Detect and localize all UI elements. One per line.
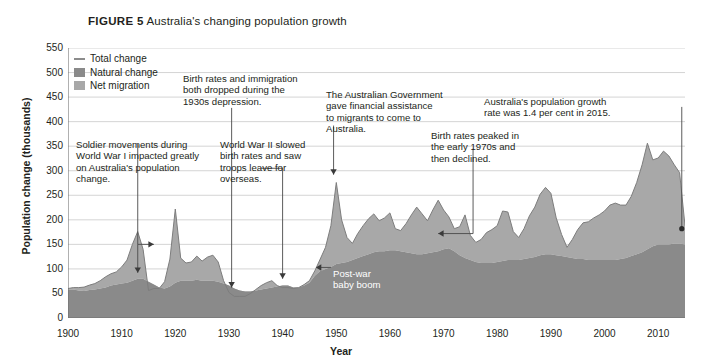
figure-caption: Australia's changing population growth bbox=[147, 15, 347, 27]
annotation-ww2: World War II slowed birth rates and saw … bbox=[220, 139, 305, 185]
x-tick-1960: 1960 bbox=[370, 328, 410, 339]
y-tick-250: 250 bbox=[29, 189, 63, 200]
legend-swatch-icon bbox=[74, 54, 85, 63]
x-tick-1930: 1930 bbox=[209, 328, 249, 339]
annotation-ww1: Soldier movements during World War I imp… bbox=[76, 139, 199, 185]
legend-label: Total change bbox=[90, 52, 147, 66]
x-tick-1980: 1980 bbox=[477, 328, 517, 339]
x-tick-1900: 1900 bbox=[48, 328, 88, 339]
legend-swatch-icon bbox=[74, 68, 85, 77]
y-tick-300: 300 bbox=[29, 165, 63, 176]
figure-container: FIGURE 5 Australia's changing population… bbox=[0, 0, 714, 364]
y-tick-200: 200 bbox=[29, 214, 63, 225]
annotation-growth-rate-2015: Australia's population growth rate was 1… bbox=[484, 96, 610, 119]
legend-item-total-change: Total change bbox=[74, 52, 158, 66]
x-tick-2000: 2000 bbox=[585, 328, 625, 339]
annotation-baby-boom: Post-war baby boom bbox=[333, 268, 380, 291]
x-tick-1910: 1910 bbox=[102, 328, 142, 339]
x-axis-title: Year bbox=[330, 345, 352, 357]
y-tick-350: 350 bbox=[29, 140, 63, 151]
figure-title: FIGURE 5 Australia's changing population… bbox=[88, 15, 347, 27]
y-tick-50: 50 bbox=[29, 287, 63, 298]
y-tick-100: 100 bbox=[29, 263, 63, 274]
chart-legend: Total changeNatural changeNet migration bbox=[74, 52, 158, 93]
x-tick-1920: 1920 bbox=[155, 328, 195, 339]
figure-number: FIGURE 5 bbox=[88, 15, 144, 27]
y-tick-550: 550 bbox=[29, 42, 63, 53]
legend-item-natural-change: Natural change bbox=[74, 66, 158, 80]
x-tick-1940: 1940 bbox=[263, 328, 303, 339]
x-tick-2010: 2010 bbox=[638, 328, 678, 339]
annotation-depression: Birth rates and immigration both dropped… bbox=[183, 73, 298, 107]
x-tick-1990: 1990 bbox=[531, 328, 571, 339]
annotation-birth-peak-1970s: Birth rates peaked in the early 1970s an… bbox=[431, 130, 519, 164]
y-tick-150: 150 bbox=[29, 238, 63, 249]
y-tick-400: 400 bbox=[29, 116, 63, 127]
y-tick-500: 500 bbox=[29, 67, 63, 78]
y-tick-0: 0 bbox=[29, 312, 63, 323]
annotation-migration-assistance: The Australian Government gave financial… bbox=[326, 89, 443, 135]
legend-label: Natural change bbox=[90, 66, 158, 80]
x-tick-1950: 1950 bbox=[316, 328, 356, 339]
legend-item-net-migration: Net migration bbox=[74, 79, 158, 93]
y-tick-450: 450 bbox=[29, 91, 63, 102]
legend-swatch-icon bbox=[74, 81, 85, 90]
legend-label: Net migration bbox=[90, 79, 149, 93]
x-tick-1970: 1970 bbox=[424, 328, 464, 339]
